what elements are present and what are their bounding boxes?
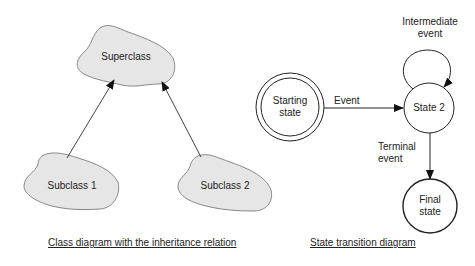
starting-state-label: Starting state — [266, 95, 314, 119]
intermediate-event-label: Intermediate event — [395, 16, 465, 40]
starting-state-line2: state — [266, 107, 314, 119]
starting-state-line1: Starting — [266, 95, 314, 107]
intermediate-event-line1: Intermediate — [395, 16, 465, 28]
final-state-line1: Final — [408, 194, 452, 206]
inheritance-arrow-2 — [162, 82, 201, 157]
terminal-event-line1: Terminal — [378, 141, 416, 153]
subclass-1-label: Subclass 1 — [40, 180, 104, 192]
terminal-event-label: Terminal event — [378, 141, 416, 165]
subclass-2-label: Subclass 2 — [192, 180, 258, 192]
class-diagram-caption: Class diagram with the inheritance relat… — [48, 237, 236, 248]
inheritance-arrow-1 — [67, 80, 114, 158]
terminal-event-line2: event — [378, 153, 416, 165]
final-state-line2: state — [408, 206, 452, 218]
superclass-label: Superclass — [96, 51, 156, 63]
event-label: Event — [334, 95, 360, 107]
final-state-label: Final state — [408, 194, 452, 218]
state-2-label: State 2 — [405, 102, 453, 114]
intermediate-event-line2: event — [395, 28, 465, 40]
state-diagram-caption: State transition diagram — [310, 237, 416, 248]
